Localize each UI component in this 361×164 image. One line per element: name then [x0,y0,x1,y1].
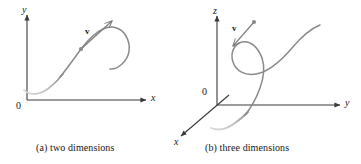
panel-b-x-axis-label: x [174,136,178,147]
panel-a-velocity-label: v [85,26,90,36]
panel-b-velocity-label: v [232,23,237,33]
panel-b-z-axis-label: z [213,5,217,16]
panel-b-point-marker [252,20,256,24]
panel-b-y-axis-label: y [345,97,349,108]
panel-a-x-axis-label: x [151,92,155,103]
panel-b-caption: (b) three dimensions [205,142,289,153]
panel-b-curve [232,25,320,115]
panel-a-curve [60,27,129,77]
panel-b-origin-label: 0 [202,86,207,97]
figure-canvas [0,0,361,164]
vector-velocity-figure: y x 0 v (a) two dimensions z y x 0 v (b)… [0,0,361,164]
panel-a-origin-label: 0 [16,100,21,111]
panel-b-graphics [181,16,340,136]
panel-a-curve-tail [24,74,63,94]
panel-a-caption: (a) two dimensions [36,142,114,153]
panel-b-curve-tail [211,112,248,129]
panel-a-y-axis-label: y [22,4,26,15]
panel-a-point-marker [79,47,83,51]
